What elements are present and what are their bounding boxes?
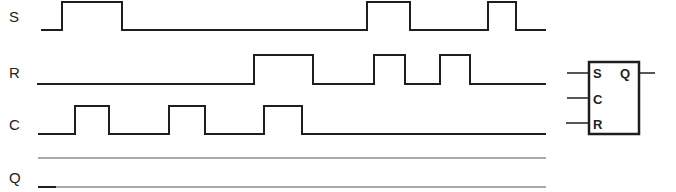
signal-label-c: C (9, 116, 20, 133)
ff-label-r: R (593, 117, 603, 132)
signal-label-s: S (9, 8, 19, 25)
sr-flip-flop-symbol: S C R Q (566, 62, 655, 134)
waveform-s (41, 2, 546, 30)
waveform-r (37, 55, 546, 84)
ff-label-s: S (593, 66, 602, 81)
signal-label-q: Q (9, 169, 21, 186)
ff-label-c: C (593, 92, 603, 107)
ff-label-q: Q (620, 66, 630, 81)
timing-diagram: SRCQ S C R Q (0, 0, 676, 192)
waveform-c (38, 106, 546, 134)
signal-label-r: R (9, 64, 20, 81)
